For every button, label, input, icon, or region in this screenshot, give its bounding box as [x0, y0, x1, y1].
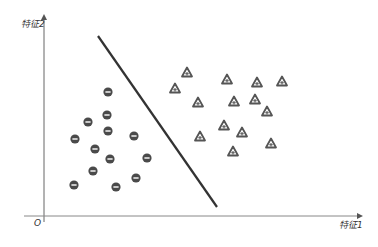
plus-triangle-icon [182, 68, 192, 77]
minus-circle-icon [131, 173, 140, 182]
minus-circle-icon [111, 182, 120, 191]
x-axis-label: 特征1 [339, 218, 363, 231]
classification-diagram [0, 0, 378, 247]
minus-circle-icon [129, 131, 138, 140]
minus-circle-icon [70, 134, 79, 143]
minus-circle-icon [142, 153, 151, 162]
positive-class-points [170, 68, 287, 156]
plus-triangle-icon [195, 132, 205, 141]
plus-triangle-icon [266, 139, 276, 148]
origin-label: O [34, 218, 41, 228]
plus-triangle-icon [229, 97, 239, 106]
plus-triangle-icon [193, 98, 203, 107]
plus-triangle-icon [262, 107, 272, 116]
minus-circle-icon [105, 154, 114, 163]
minus-circle-icon [102, 110, 111, 119]
minus-circle-icon [103, 87, 112, 96]
decision-boundary-line [98, 36, 217, 207]
plus-triangle-icon [222, 75, 232, 84]
plus-triangle-icon [250, 95, 260, 104]
plus-triangle-icon [170, 84, 180, 93]
minus-circle-icon [69, 180, 78, 189]
plus-triangle-icon [219, 121, 229, 130]
plus-triangle-icon [228, 147, 238, 156]
minus-circle-icon [83, 117, 92, 126]
negative-class-points [69, 87, 151, 191]
plus-triangle-icon [277, 77, 287, 86]
minus-circle-icon [90, 144, 99, 153]
y-axis-label: 特征2 [21, 17, 45, 30]
minus-circle-icon [103, 126, 112, 135]
plus-triangle-icon [237, 128, 247, 137]
plus-triangle-icon [252, 78, 262, 87]
minus-circle-icon [88, 166, 97, 175]
